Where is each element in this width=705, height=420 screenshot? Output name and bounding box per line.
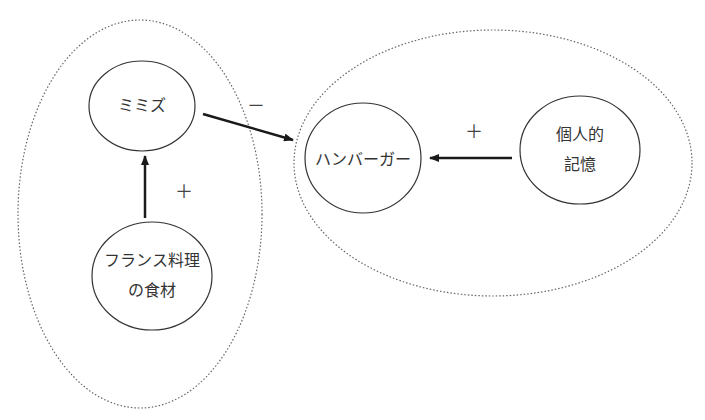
diagram-canvas — [0, 0, 705, 420]
node-memory-label: 個人的 記憶 — [556, 120, 604, 180]
edge-sign-positive-memory: ＋ — [465, 117, 483, 143]
node-mimizu-label: ミミズ — [118, 91, 166, 121]
node-french-label: フランス料理 の食材 — [104, 246, 200, 306]
node-french-line2: の食材 — [104, 276, 200, 306]
node-french-line1: フランス料理 — [104, 246, 200, 276]
arrow-mimizu-to-hamburger — [203, 114, 293, 140]
edge-sign-positive-french: ＋ — [175, 177, 193, 203]
node-memory-line2: 記憶 — [556, 150, 604, 180]
node-memory-line1: 個人的 — [556, 120, 604, 150]
edge-sign-negative: － — [247, 91, 265, 117]
node-hamburger-label: ハンバーガー — [315, 145, 411, 175]
